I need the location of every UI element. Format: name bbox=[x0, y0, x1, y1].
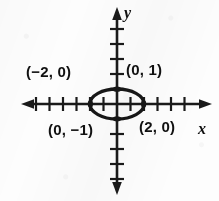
vertex-marker-top bbox=[113, 87, 121, 92]
y-axis-bottom-arrowhead bbox=[112, 182, 122, 195]
y-axis-label: y bbox=[124, 5, 131, 21]
vertex-marker-bottom bbox=[113, 116, 121, 121]
coordinate-plane bbox=[0, 0, 219, 201]
vertex-marker-left bbox=[88, 100, 93, 108]
graph-figure: (−2, 0) (0, 1) (0, −1) (2, 0) x y bbox=[0, 0, 219, 201]
x-axis-left-arrowhead bbox=[21, 99, 34, 109]
point-label-zero-minus-one: (0, −1) bbox=[48, 122, 93, 137]
x-axis-right-arrowhead bbox=[199, 99, 212, 109]
x-axis-label: x bbox=[198, 121, 206, 137]
y-axis-group bbox=[110, 7, 124, 195]
point-label-zero-one: (0, 1) bbox=[126, 62, 162, 77]
y-axis-top-arrowhead bbox=[112, 7, 122, 20]
point-label-minus-two-zero: (−2, 0) bbox=[26, 64, 71, 79]
point-label-two-zero: (2, 0) bbox=[139, 119, 175, 134]
vertex-marker-right bbox=[141, 100, 146, 108]
